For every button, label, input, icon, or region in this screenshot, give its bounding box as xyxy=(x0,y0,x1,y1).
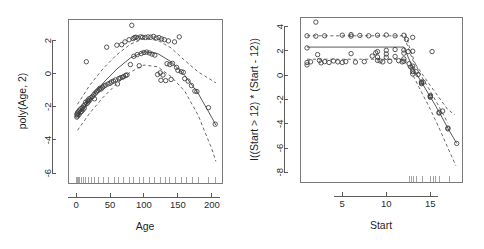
y-axis-tick-label: 0 xyxy=(42,71,53,76)
data-point xyxy=(130,23,134,27)
data-point xyxy=(327,60,331,64)
x-axis-tick-label: 100 xyxy=(136,199,152,210)
x-axis-title: Start xyxy=(370,219,392,231)
y-axis-tick-label: 0 xyxy=(274,73,285,78)
data-point xyxy=(362,59,366,63)
data-point xyxy=(104,45,108,49)
y-axis-tick-label: 2 xyxy=(274,48,285,53)
y-axis-title: I((Start > 12) * (Start - 12)) xyxy=(248,38,260,161)
data-point xyxy=(305,46,309,50)
y-axis-tick-label: -2 xyxy=(274,95,285,103)
y-axis-tick-label: -6 xyxy=(274,144,285,152)
panel-start: 420-2-4-6-851015StartI((Start > 12) * (S… xyxy=(242,0,484,249)
data-point xyxy=(84,60,88,64)
data-point xyxy=(384,33,388,37)
data-point xyxy=(149,35,153,39)
data-point xyxy=(406,49,410,53)
y-axis-title: poly(Age, 2) xyxy=(16,73,28,130)
data-point xyxy=(375,33,379,37)
data-point xyxy=(172,40,176,44)
data-point xyxy=(165,62,169,66)
data-point xyxy=(340,33,344,37)
data-point xyxy=(157,35,161,39)
data-point xyxy=(314,20,318,24)
y-axis-tick-label: -4 xyxy=(42,136,53,144)
confidence-band-upper xyxy=(78,39,216,105)
data-point xyxy=(159,78,163,82)
data-point xyxy=(177,35,181,39)
confidence-band-lower xyxy=(307,59,456,165)
panel-age: 20-2-4-6050100150200Agepoly(Age, 2) xyxy=(0,0,242,249)
x-axis-title: Age xyxy=(136,220,155,232)
data-point xyxy=(336,60,340,64)
x-axis-tick-label: 50 xyxy=(105,199,116,210)
age-scatter-plot: 20-2-4-6050100150200Agepoly(Age, 2) xyxy=(0,0,242,249)
confidence-band-extra xyxy=(406,34,448,123)
y-axis-tick-label: 4 xyxy=(274,24,285,29)
data-point xyxy=(168,62,172,66)
data-point xyxy=(163,78,167,82)
data-point xyxy=(353,60,357,64)
data-point xyxy=(388,59,392,63)
x-axis-tick-label: 10 xyxy=(381,198,392,209)
confidence-band-lower xyxy=(78,65,216,161)
data-point xyxy=(370,54,374,58)
data-point xyxy=(393,47,397,51)
data-point xyxy=(315,52,319,56)
y-axis-tick-label: -2 xyxy=(42,103,53,111)
y-axis-tick-label: -8 xyxy=(274,168,285,176)
x-axis-tick-label: 200 xyxy=(204,199,220,210)
data-point xyxy=(166,39,170,43)
data-point xyxy=(331,59,335,63)
data-point xyxy=(402,33,406,37)
confidence-band-upper xyxy=(307,36,455,115)
y-axis-tick-label: 2 xyxy=(42,38,53,43)
data-point xyxy=(349,51,353,55)
data-point xyxy=(393,54,397,58)
data-point xyxy=(381,60,385,64)
data-point xyxy=(430,49,434,53)
x-axis-tick-label: 150 xyxy=(170,199,186,210)
data-point xyxy=(159,37,163,41)
x-axis-tick-label: 5 xyxy=(340,198,345,209)
data-point xyxy=(378,59,382,63)
data-point xyxy=(206,105,210,109)
data-point xyxy=(169,77,173,81)
regression-term-plot-figure: 20-2-4-6050100150200Agepoly(Age, 2) 420-… xyxy=(0,0,484,249)
y-axis-tick-label: -4 xyxy=(274,120,285,128)
data-point xyxy=(384,55,388,59)
data-point xyxy=(128,62,132,66)
x-axis-tick-label: 0 xyxy=(73,199,78,210)
x-axis-tick-label: 15 xyxy=(425,198,436,209)
data-point xyxy=(411,35,415,39)
plot-frame xyxy=(68,19,222,183)
start-scatter-plot: 420-2-4-6-851015StartI((Start > 12) * (S… xyxy=(242,0,484,249)
y-axis-tick-label: -6 xyxy=(42,169,53,177)
data-point xyxy=(115,43,119,47)
plot-frame xyxy=(300,17,462,182)
data-point xyxy=(402,51,406,55)
